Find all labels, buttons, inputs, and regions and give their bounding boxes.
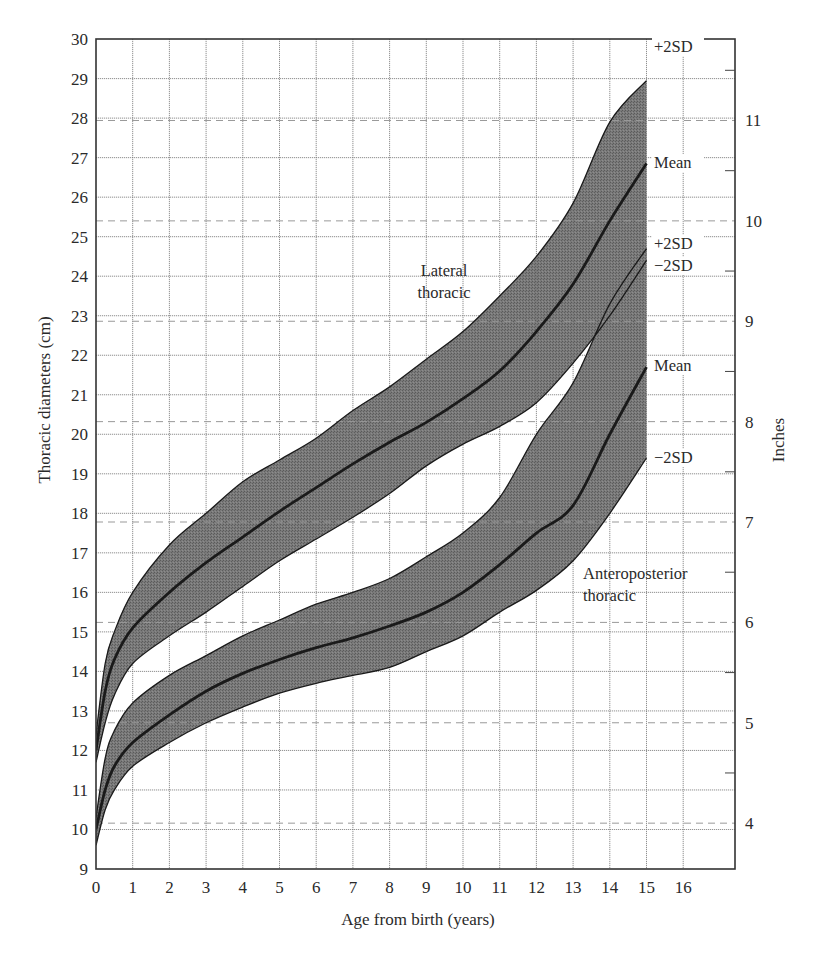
curve-annotation: +2SD [654, 37, 693, 56]
y-tick-label: 16 [71, 583, 88, 602]
x-tick-label: 10 [455, 878, 472, 897]
curve-annotations: +2SDMean+2SD−2SDMean−2SD [652, 37, 704, 467]
x-axis-tick-labels: 012345678910111213141516 [92, 878, 692, 897]
svg-text:Lateral: Lateral [421, 261, 468, 280]
x-tick-label: 8 [385, 878, 394, 897]
svg-text:thoracic: thoracic [583, 586, 636, 605]
y2-tick-label: 5 [745, 714, 754, 733]
svg-text:thoracic: thoracic [417, 283, 470, 302]
x-tick-label: 2 [165, 878, 174, 897]
y-tick-label: 14 [71, 662, 89, 681]
x-tick-label: 9 [422, 878, 431, 897]
y-axis-tick-labels: 9101112131415161718192021222324252627282… [71, 30, 89, 879]
y-tick-label: 19 [71, 465, 88, 484]
x-tick-label: 14 [601, 878, 619, 897]
curve-annotation: −2SD [654, 256, 693, 275]
y-tick-label: 15 [71, 623, 88, 642]
y-tick-label: 18 [71, 504, 88, 523]
thoracic-growth-chart: 9101112131415161718192021222324252627282… [0, 0, 832, 962]
y-tick-label: 27 [71, 149, 89, 168]
shaded-bands [96, 81, 647, 846]
y2-tick-label: 10 [745, 212, 762, 231]
svg-text:Anteroposterior: Anteroposterior [583, 564, 688, 583]
y-tick-label: 12 [71, 741, 88, 760]
curve-annotation: +2SD [654, 234, 693, 253]
x-tick-label: 12 [528, 878, 545, 897]
curve-annotation: −2SD [654, 448, 693, 467]
y-tick-label: 28 [71, 109, 88, 128]
x-tick-label: 1 [128, 878, 137, 897]
x-tick-label: 0 [92, 878, 101, 897]
y-tick-label: 13 [71, 702, 88, 721]
y-tick-label: 26 [71, 188, 88, 207]
x-axis-title: Age from birth (years) [341, 910, 494, 929]
y2-tick-label: 6 [745, 613, 754, 632]
x-tick-label: 15 [638, 878, 655, 897]
y-tick-label: 20 [71, 425, 88, 444]
x-tick-label: 6 [312, 878, 321, 897]
y2-tick-label: 8 [745, 413, 754, 432]
y2-axis-title: Inches [769, 418, 788, 462]
y-tick-label: 29 [71, 70, 88, 89]
y-axis-title: Thoracic diameters (cm) [35, 316, 54, 483]
y2-tick-label: 7 [745, 513, 754, 532]
y-tick-label: 24 [71, 267, 89, 286]
y2-axis-tick-labels: 4567891011 [745, 111, 762, 833]
y2-tick-label: 11 [745, 111, 761, 130]
y-tick-label: 9 [80, 860, 89, 879]
y-tick-label: 30 [71, 30, 88, 49]
x-tick-label: 13 [565, 878, 582, 897]
y-tick-label: 25 [71, 228, 88, 247]
y-tick-label: 17 [71, 544, 89, 563]
band-label-anteroposterior: Anteroposterior thoracic [583, 564, 688, 605]
y-tick-label: 10 [71, 820, 88, 839]
curve-annotation: Mean [654, 153, 692, 172]
y-tick-label: 22 [71, 346, 88, 365]
right-axis-minor-ticks [725, 70, 735, 823]
x-tick-label: 7 [349, 878, 358, 897]
x-tick-label: 4 [239, 878, 248, 897]
y-tick-label: 11 [72, 781, 88, 800]
x-tick-label: 11 [492, 878, 508, 897]
x-tick-label: 3 [202, 878, 211, 897]
y2-tick-label: 9 [745, 312, 754, 331]
y2-tick-label: 4 [745, 814, 754, 833]
y-tick-label: 23 [71, 307, 88, 326]
curve-annotation: Mean [654, 356, 692, 375]
x-tick-label: 16 [675, 878, 692, 897]
x-tick-label: 5 [275, 878, 284, 897]
y-tick-label: 21 [71, 386, 88, 405]
